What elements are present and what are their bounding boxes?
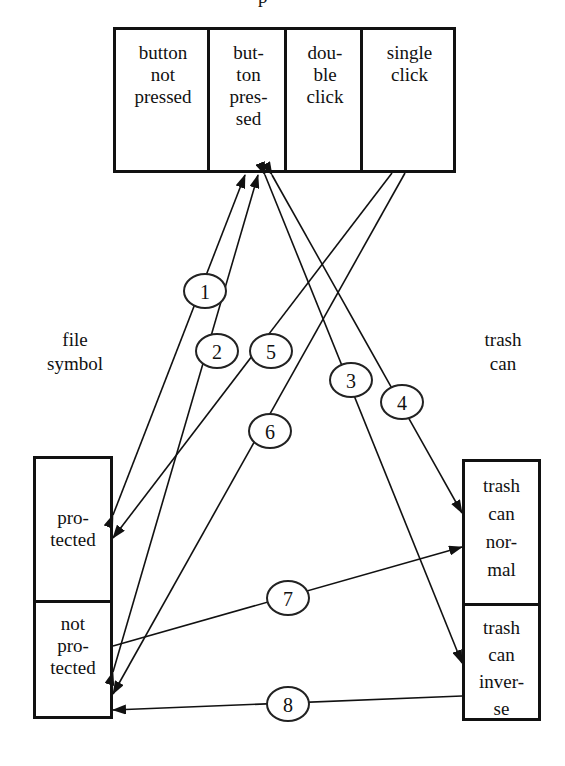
transition-badge-7: 7 [266,580,310,616]
transition-arrows [0,0,565,766]
transition-badge-5: 5 [249,333,293,369]
arrow-2 [113,175,258,672]
transition-badge-3: 3 [329,362,373,398]
arrow-4 [272,175,462,513]
transition-badge-4: 4 [380,384,424,420]
transition-badge-8: 8 [266,686,310,722]
transition-badge-1: 1 [183,273,227,309]
transition-badge-2: 2 [195,333,239,369]
transition-badge-6: 6 [248,413,292,449]
